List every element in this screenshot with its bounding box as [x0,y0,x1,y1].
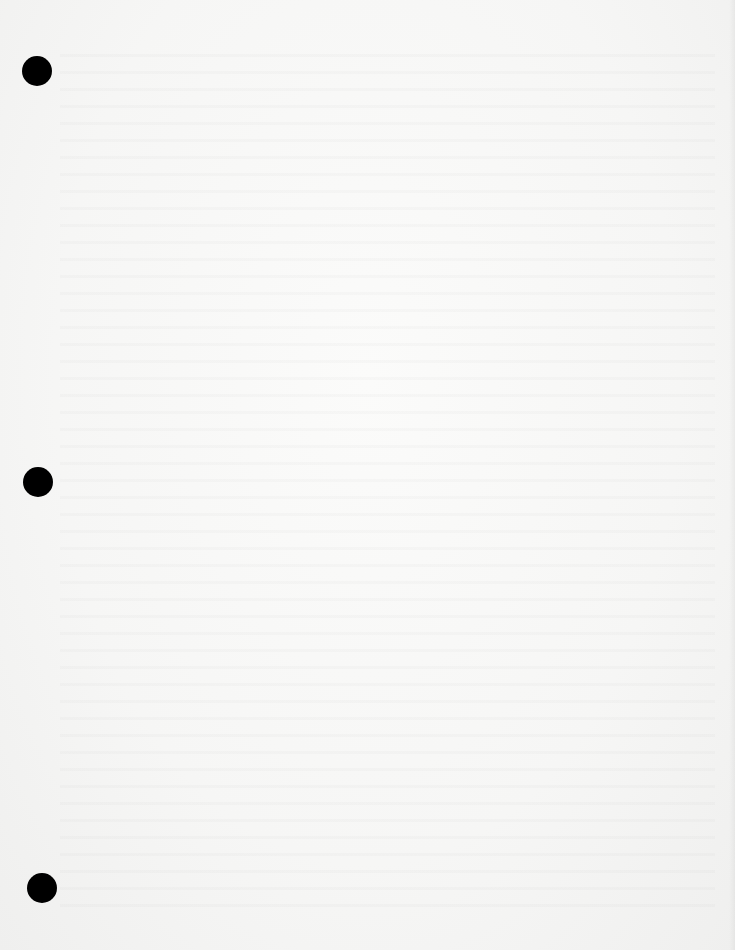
punch-hole-top [22,56,52,86]
punch-hole-bottom [27,873,57,903]
scanned-page [0,0,735,950]
bleed-through-texture [60,40,715,920]
page-edge-shadow [729,0,735,950]
punch-hole-middle [23,467,53,497]
